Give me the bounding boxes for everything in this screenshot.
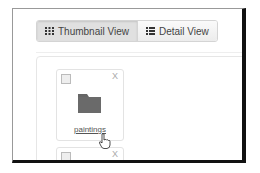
thumbnail-grid: X paintings X xyxy=(36,56,246,163)
thumbnail-view-label: Thumbnail View xyxy=(58,26,129,37)
thumbnail-card[interactable]: X paintings xyxy=(56,69,124,141)
thumbnail-view-button[interactable]: Thumbnail View xyxy=(37,21,137,41)
folder-icon[interactable] xyxy=(78,94,101,113)
screenshot-frame: Thumbnail View Detail View X paintings X xyxy=(12,8,246,163)
delete-icon[interactable]: X xyxy=(112,149,118,159)
delete-icon[interactable]: X xyxy=(112,71,118,81)
folder-name-link[interactable]: paintings xyxy=(57,125,123,134)
detail-view-label: Detail View xyxy=(159,26,209,37)
select-checkbox[interactable] xyxy=(61,74,71,84)
hand-pointer-cursor-icon xyxy=(99,133,111,149)
list-icon xyxy=(146,27,155,35)
detail-view-button[interactable]: Detail View xyxy=(137,21,217,41)
divider xyxy=(36,52,242,53)
grid-icon xyxy=(45,27,54,35)
view-toggle: Thumbnail View Detail View xyxy=(36,20,218,42)
select-checkbox[interactable] xyxy=(61,152,71,162)
thumbnail-card[interactable]: X xyxy=(56,147,124,163)
